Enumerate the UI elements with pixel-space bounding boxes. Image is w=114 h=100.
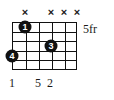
string-marker-4 (32, 6, 44, 18)
fret-line-3 (13, 51, 76, 52)
string-line-2 (65, 23, 66, 69)
finger-dot-4: 4 (6, 50, 19, 63)
string-marker-3: × (45, 6, 57, 18)
fret-position-label: 5fr (83, 22, 97, 37)
finger-dot-3: 3 (45, 40, 58, 53)
guitar-chord-diagram: × × × × 1 3 4 5fr 1 5 2 (0, 0, 114, 100)
string-marker-1: × (71, 6, 83, 18)
finger-number-string-6: 1 (5, 76, 19, 91)
string-marker-5: × (19, 6, 31, 18)
string-marker-2: × (58, 6, 70, 18)
fret-line-4 (13, 60, 76, 61)
string-line-4 (39, 23, 40, 69)
finger-dot-1: 1 (19, 21, 32, 34)
finger-number-string-3: 2 (43, 76, 57, 91)
string-marker-6 (6, 6, 18, 18)
